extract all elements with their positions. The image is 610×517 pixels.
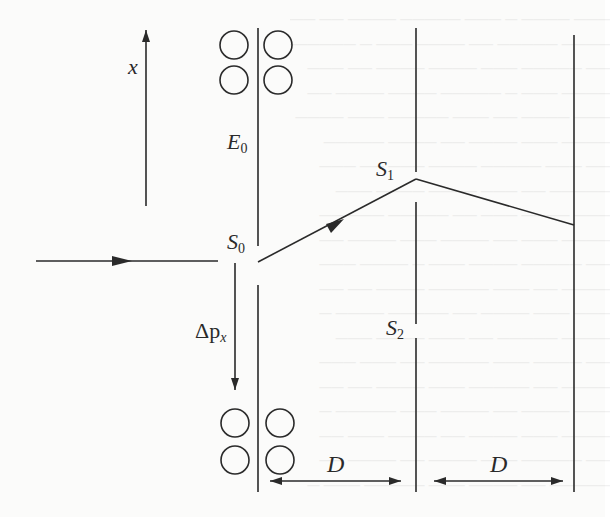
distance-label-left: D <box>327 452 344 476</box>
e0-label: E0 <box>227 131 247 156</box>
ray-s1-to-screen <box>416 179 574 225</box>
s2-label: S2 <box>386 317 404 342</box>
s1-label: S1 <box>376 158 394 183</box>
x-axis-label: x <box>128 56 138 78</box>
distance-label-right: D <box>490 452 507 476</box>
ray-s0-to-s1 <box>258 179 416 262</box>
incident-beam <box>36 256 218 266</box>
cavities-top <box>220 31 292 94</box>
s0-label: S0 <box>227 231 245 256</box>
momentum-label: Δpx <box>195 320 226 345</box>
